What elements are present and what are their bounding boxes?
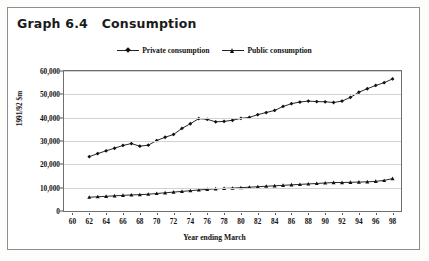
x-axis-tick-mark: [342, 213, 343, 215]
x-axis-tick-label: 96: [372, 217, 379, 226]
legend-item-private: Private consumption: [117, 46, 209, 55]
x-axis-tick-mark: [241, 213, 242, 215]
data-point-marker: [146, 143, 150, 147]
gridline: [64, 94, 401, 95]
x-axis-tick-label: 84: [271, 217, 278, 226]
data-point-marker: [332, 101, 336, 105]
y-axis-tick-label: 0: [8, 207, 60, 216]
x-axis-tick-label: 92: [338, 217, 345, 226]
x-axis-tick-label: 82: [254, 217, 261, 226]
x-axis-tick-mark: [190, 213, 191, 215]
data-point-marker: [298, 100, 302, 104]
data-point-marker: [121, 144, 125, 148]
x-axis-tick-label: 66: [119, 217, 126, 226]
diamond-marker-icon: [117, 47, 139, 55]
x-axis-tick-mark: [393, 213, 394, 215]
y-axis-tick-label: 40,000: [8, 113, 60, 122]
data-point-marker: [391, 177, 395, 181]
x-axis-tick-mark: [106, 213, 107, 215]
y-axis-tick-label: 20,000: [8, 160, 60, 169]
page-title: Graph 6.4 Consumption: [17, 16, 197, 31]
x-axis-ticks: 6062646668707274767880828486889092949698: [63, 213, 402, 227]
chart-page: Graph 6.4 Consumption Private consumptio…: [0, 0, 429, 261]
data-point-marker: [87, 155, 91, 159]
data-point-marker: [130, 142, 134, 146]
x-axis-tick-label: 74: [187, 217, 194, 226]
data-point-marker: [214, 120, 218, 124]
x-axis-tick-label: 94: [355, 217, 362, 226]
data-point-marker: [113, 146, 117, 150]
gridline: [64, 188, 401, 189]
data-point-marker: [290, 102, 294, 106]
data-point-marker: [264, 111, 268, 115]
x-axis-tick-mark: [174, 213, 175, 215]
x-axis-tick-label: 72: [170, 217, 177, 226]
data-point-marker: [382, 81, 386, 85]
y-axis-tick-label: 60,000: [8, 67, 60, 76]
x-axis-tick-mark: [157, 213, 158, 215]
x-axis-tick-mark: [376, 213, 377, 215]
legend-label-private: Private consumption: [142, 46, 209, 55]
data-point-marker: [365, 87, 369, 91]
x-axis-tick-mark: [275, 213, 276, 215]
data-point-marker: [323, 100, 327, 104]
x-axis-tick-label: 86: [288, 217, 295, 226]
data-point-marker: [340, 99, 344, 103]
data-point-marker: [256, 113, 260, 117]
data-point-marker: [281, 105, 285, 109]
plot-area: [63, 70, 402, 212]
gridline: [64, 118, 401, 119]
x-axis-tick-label: 80: [237, 217, 244, 226]
y-axis-tick-label: 30,000: [8, 137, 60, 146]
gridline: [64, 141, 401, 142]
x-axis-tick-label: 68: [136, 217, 143, 226]
x-axis-tick-mark: [140, 213, 141, 215]
data-point-marker: [273, 109, 277, 113]
x-axis-tick-mark: [207, 213, 208, 215]
x-axis-tick-mark: [308, 213, 309, 215]
x-axis-tick-mark: [72, 213, 73, 215]
legend-label-public: Public consumption: [247, 46, 311, 55]
data-point-marker: [391, 77, 395, 81]
data-point-marker: [231, 118, 235, 122]
data-point-marker: [315, 100, 319, 104]
x-axis-tick-label: 78: [220, 217, 227, 226]
data-point-marker: [222, 120, 226, 124]
chart-legend: Private consumption Public consumption: [0, 46, 429, 55]
x-axis-tick-label: 70: [153, 217, 160, 226]
x-axis-tick-mark: [291, 213, 292, 215]
x-axis-tick-mark: [89, 213, 90, 215]
data-point-marker: [306, 99, 310, 103]
x-axis-tick-label: 76: [204, 217, 211, 226]
x-axis-tick-label: 90: [322, 217, 329, 226]
data-point-marker: [163, 135, 167, 139]
x-axis-tick-label: 64: [102, 217, 109, 226]
data-point-marker: [138, 144, 142, 148]
x-axis-tick-mark: [258, 213, 259, 215]
x-axis-title: Year ending March: [0, 233, 429, 242]
data-point-marker: [374, 84, 378, 88]
data-point-marker: [104, 149, 108, 153]
x-axis-tick-mark: [359, 213, 360, 215]
x-axis-tick-label: 88: [305, 217, 312, 226]
x-axis-tick-mark: [224, 213, 225, 215]
data-point-marker: [96, 152, 100, 156]
x-axis-tick-label: 62: [86, 217, 93, 226]
triangle-marker-icon: [222, 47, 244, 55]
x-axis-tick-mark: [123, 213, 124, 215]
y-axis-tick-label: 10,000: [8, 183, 60, 192]
gridline: [64, 164, 401, 165]
y-axis-ticks: 60,00050,00040,00030,00020,00010,0000: [5, 70, 60, 212]
x-axis-tick-label: 98: [389, 217, 396, 226]
gridline: [64, 71, 401, 72]
x-axis-tick-label: 60: [69, 217, 76, 226]
y-axis-tick-label: 50,000: [8, 90, 60, 99]
legend-item-public: Public consumption: [222, 46, 311, 55]
x-axis-tick-mark: [325, 213, 326, 215]
